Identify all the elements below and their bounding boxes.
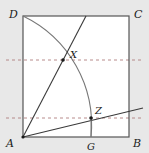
vertex-label-b: B <box>132 137 141 150</box>
point-label-z: Z <box>94 105 103 116</box>
vertex-label-a: A <box>5 137 14 150</box>
vertex-label-c: C <box>134 8 143 21</box>
point-marker-a <box>21 135 24 138</box>
point-label-x: X <box>69 49 78 60</box>
vertex-label-d: D <box>8 8 18 21</box>
geometry-figure: D C A B X Z G <box>0 0 149 153</box>
point-marker-z <box>89 116 93 120</box>
point-label-g: G <box>87 141 95 152</box>
point-marker-x <box>61 58 65 62</box>
geometry-canvas: D C A B X Z G <box>0 0 149 153</box>
